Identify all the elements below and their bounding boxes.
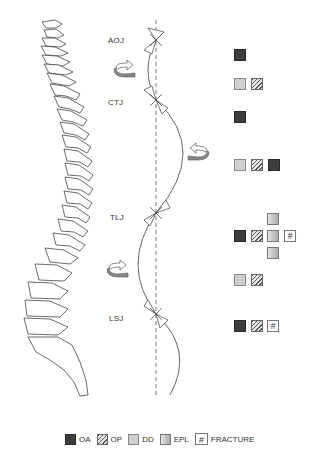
legend: OA OP DD EPL # FRACTURE (65, 433, 260, 445)
op-marker (251, 230, 263, 242)
dd-marker (234, 78, 246, 90)
oa-marker (234, 320, 246, 332)
dd-marker (234, 274, 246, 286)
fracture-marker: # (267, 320, 279, 332)
fracture-marker: # (284, 230, 296, 242)
rotation-arrow-icon (186, 143, 210, 161)
op-marker (251, 78, 263, 90)
oa-marker (234, 49, 246, 61)
epl-swatch (160, 434, 171, 445)
legend-item-op: OP (97, 434, 123, 445)
op-marker (251, 320, 263, 332)
legend-item-fracture: # FRACTURE (195, 433, 255, 445)
legend-item-epl: EPL (160, 434, 189, 445)
rotation-arrow-icon (106, 260, 130, 278)
op-marker (251, 274, 263, 286)
rotation-arrow-icon (113, 60, 137, 78)
oa-marker (234, 111, 246, 123)
oa-marker (234, 230, 246, 242)
legend-label: OP (111, 435, 123, 444)
junction-label-tlj: TLJ (110, 213, 124, 222)
epl-marker (267, 230, 279, 242)
junction-label-aoj: AOJ (108, 36, 124, 45)
legend-label: DD (142, 435, 154, 444)
legend-label: OA (79, 435, 91, 444)
junction-label-lsj: LSJ (109, 314, 123, 323)
op-swatch (97, 434, 108, 445)
legend-item-oa: OA (65, 434, 91, 445)
legend-label: EPL (174, 435, 189, 444)
dd-marker (234, 159, 246, 171)
op-marker (251, 159, 263, 171)
epl-marker (267, 213, 279, 225)
dd-swatch (128, 434, 139, 445)
legend-item-dd: DD (128, 434, 154, 445)
oa-marker (268, 159, 280, 171)
junction-label-ctj: CTJ (108, 98, 123, 107)
fracture-swatch: # (195, 433, 208, 445)
legend-label: FRACTURE (211, 435, 255, 444)
epl-marker (267, 247, 279, 259)
oa-swatch (65, 434, 76, 445)
